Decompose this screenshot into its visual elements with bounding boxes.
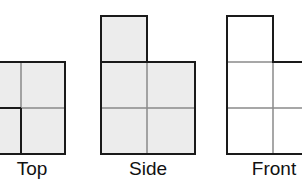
front-view [227,16,302,154]
side-view-label: Side [108,158,188,180]
top-view-label: Top [0,158,72,180]
side-view [101,16,195,154]
top-view [0,62,65,154]
front-view-label: Front [234,158,302,180]
